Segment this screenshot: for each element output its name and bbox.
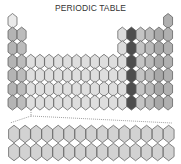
element-cell-p2-g18 (164, 27, 173, 42)
element-cell-p7-g12 (109, 95, 118, 110)
element-cell-p5-g13 (118, 68, 127, 83)
f-block-cell-r1-c8 (86, 125, 97, 143)
element-cell-p5-g8 (72, 68, 81, 83)
element-cell-p7-g6 (54, 95, 63, 110)
f-block-cell-r1-c2 (20, 125, 31, 143)
element-cell-p7-g13 (118, 95, 127, 110)
element-cell-p6-g3 (26, 82, 35, 97)
f-block-cell-r2-c2 (20, 143, 31, 161)
element-cell-p6-g11 (100, 82, 109, 97)
element-cell-p7-g10 (90, 95, 99, 110)
element-cell-p6-g5 (45, 82, 54, 97)
element-cell-p2-g15 (136, 27, 145, 42)
element-cell-p5-g12 (109, 68, 118, 83)
element-cell-p7-g4 (35, 95, 44, 110)
element-cell-p6-g7 (63, 82, 72, 97)
element-cell-p7-g16 (145, 95, 154, 110)
f-block-cell-r2-c7 (75, 143, 86, 161)
element-cell-p4-g4 (35, 54, 44, 69)
element-cell-p6-g6 (54, 82, 63, 97)
f-block-cell-r2-c15 (163, 143, 174, 161)
element-cell-p7-g1 (8, 95, 17, 110)
f-block-cell-r1-c1 (9, 125, 20, 143)
f-block-cell-r2-c5 (53, 143, 64, 161)
f-block-cell-r1-c9 (97, 125, 108, 143)
element-cell-p5-g7 (63, 68, 72, 83)
element-cell-p3-g2 (17, 41, 26, 56)
element-cell-p4-g10 (90, 54, 99, 69)
element-cell-p7-g3 (26, 95, 35, 110)
element-cell-p6-g9 (81, 82, 90, 97)
element-cell-p2-g13 (118, 27, 127, 42)
element-cell-p5-g6 (54, 68, 63, 83)
element-cell-p5-g4 (35, 68, 44, 83)
element-cell-p7-g9 (81, 95, 90, 110)
f-block-cell-r1-c7 (75, 125, 86, 143)
element-cell-p7-g14 (127, 95, 136, 110)
element-cell-p4-g15 (136, 54, 145, 69)
element-cell-p6-g8 (72, 82, 81, 97)
f-block-cell-r1-c6 (64, 125, 75, 143)
f-block-cell-r1-c10 (108, 125, 119, 143)
element-cell-p3-g15 (136, 41, 145, 56)
f-block-connector-line (10, 110, 31, 123)
element-cell-p4-g12 (109, 54, 118, 69)
f-block-cell-r1-c15 (163, 125, 174, 143)
element-cell-p4-g7 (63, 54, 72, 69)
f-block-cell-r2-c10 (108, 143, 119, 161)
f-block-cell-r2-c11 (119, 143, 130, 161)
element-cell-p1-g1 (8, 14, 17, 29)
element-cell-p6-g13 (118, 82, 127, 97)
element-cell-p3-g18 (164, 41, 173, 56)
f-block-cell-r2-c1 (9, 143, 20, 161)
element-cell-p2-g14 (127, 27, 136, 42)
element-cell-p5-g17 (154, 68, 163, 83)
element-cell-p4-g3 (26, 54, 35, 69)
element-cell-p5-g16 (145, 68, 154, 83)
element-cell-p3-g1 (8, 41, 17, 56)
element-cell-p6-g1 (8, 82, 17, 97)
element-cell-p5-g11 (100, 68, 109, 83)
periodic-table-grid (0, 0, 181, 164)
element-cell-p6-g17 (154, 82, 163, 97)
element-cell-p5-g9 (81, 68, 90, 83)
element-cell-p7-g2 (17, 95, 26, 110)
element-cell-p2-g1 (8, 27, 17, 42)
f-block-cell-r1-c13 (141, 125, 152, 143)
element-cell-p7-g17 (154, 95, 163, 110)
element-cell-p4-g14 (127, 54, 136, 69)
element-cell-p6-g16 (145, 82, 154, 97)
element-cell-p7-g8 (72, 95, 81, 110)
f-block-cell-r2-c8 (86, 143, 97, 161)
f-block-cell-r1-c3 (31, 125, 42, 143)
f-block-connector-line (31, 116, 172, 123)
element-cell-p5-g1 (8, 68, 17, 83)
f-block-cell-r1-c4 (42, 125, 53, 143)
f-block-cell-r2-c9 (97, 143, 108, 161)
element-cell-p6-g14 (127, 82, 136, 97)
element-cell-p4-g9 (81, 54, 90, 69)
element-cell-p4-g6 (54, 54, 63, 69)
element-cell-p2-g16 (145, 27, 154, 42)
element-cell-p5-g3 (26, 68, 35, 83)
element-cell-p2-g17 (154, 27, 163, 42)
element-cell-p6-g4 (35, 82, 44, 97)
element-cell-p4-g11 (100, 54, 109, 69)
element-cell-p3-g14 (127, 41, 136, 56)
element-cell-p6-g2 (17, 82, 26, 97)
element-cell-p7-g5 (45, 95, 54, 110)
element-cell-p6-g15 (136, 82, 145, 97)
f-block-cell-r2-c14 (152, 143, 163, 161)
element-cell-p2-g2 (17, 27, 26, 42)
element-cell-p4-g13 (118, 54, 127, 69)
element-cell-p5-g10 (90, 68, 99, 83)
element-cell-p5-g18 (164, 68, 173, 83)
element-cell-p6-g12 (109, 82, 118, 97)
element-cell-p4-g18 (164, 54, 173, 69)
element-cell-p6-g18 (164, 82, 173, 97)
element-cell-p4-g2 (17, 54, 26, 69)
f-block-cell-r1-c12 (130, 125, 141, 143)
f-block-cell-r2-c6 (64, 143, 75, 161)
f-block-cell-r1-c14 (152, 125, 163, 143)
element-cell-p4-g8 (72, 54, 81, 69)
